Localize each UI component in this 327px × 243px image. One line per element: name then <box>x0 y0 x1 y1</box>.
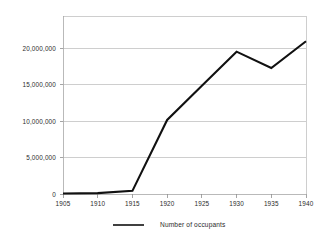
line-chart: 20,000,000 15,000,000 10,000,000 5,000,0… <box>0 0 327 243</box>
x-tick-label-1905: 1905 <box>56 200 71 207</box>
x-tick-label-1910: 1910 <box>90 200 105 207</box>
y-tick-label-5000000: 5,000,000 <box>26 154 56 161</box>
x-tick-label-1915: 1915 <box>125 200 140 207</box>
x-tick-label-1935: 1935 <box>264 200 279 207</box>
x-tick-label-1920: 1920 <box>160 200 175 207</box>
legend-label-number-of-occupants: Number of occupants <box>160 221 226 229</box>
y-tick-label-10000000: 10,000,000 <box>23 118 57 125</box>
x-tick-label-1925: 1925 <box>194 200 209 207</box>
y-tick-label-20000000: 20,000,000 <box>23 45 57 52</box>
x-tick-label-1940: 1940 <box>299 200 314 207</box>
y-tick-label-0: 0 <box>52 191 56 198</box>
y-tick-label-15000000: 15,000,000 <box>23 81 57 88</box>
x-tick-label-1930: 1930 <box>229 200 244 207</box>
chart-canvas: 20,000,000 15,000,000 10,000,000 5,000,0… <box>0 0 327 243</box>
